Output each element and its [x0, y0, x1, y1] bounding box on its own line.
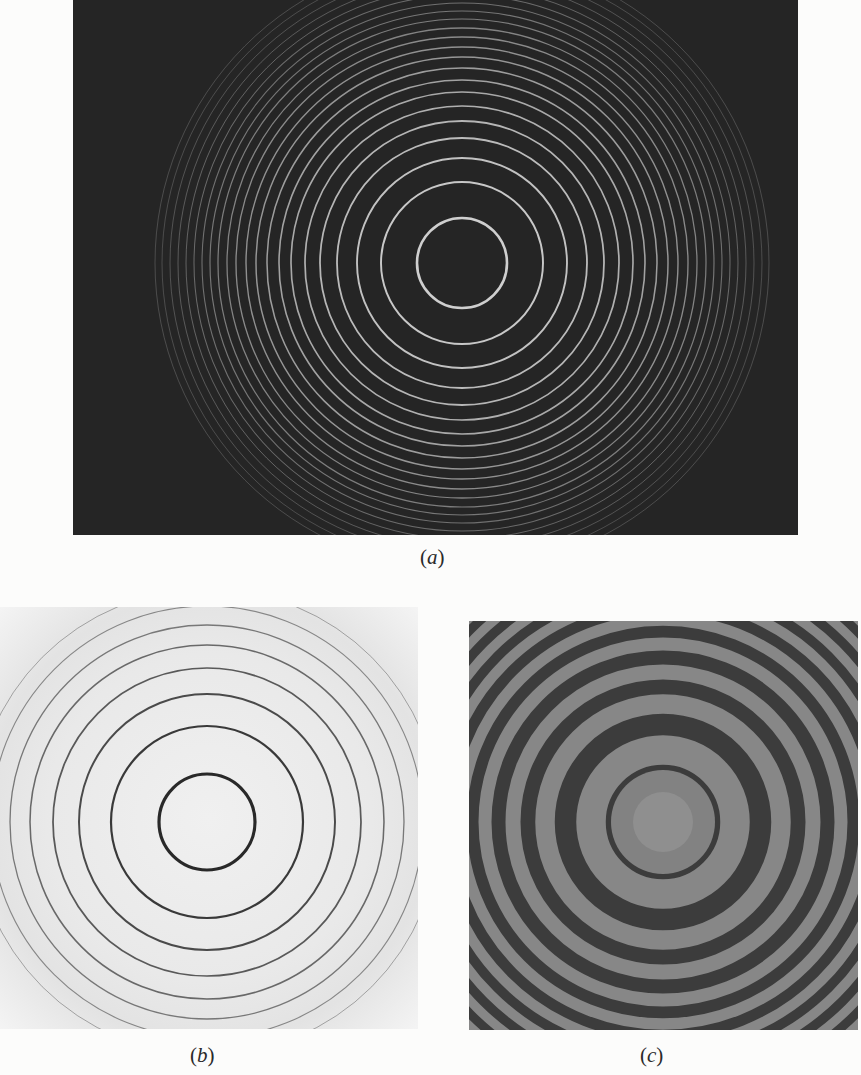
figure-panel-a: [73, 0, 798, 535]
caption-a: (a): [420, 545, 445, 570]
fringe-ring: [53, 668, 361, 976]
figure-panel-c: [469, 621, 858, 1030]
fringe-ring: [256, 57, 668, 469]
caption-paren-open: (: [190, 1043, 197, 1067]
caption-paren-close: ): [656, 1043, 663, 1067]
fringe-ring: [279, 80, 645, 446]
fringe-ring: [320, 121, 604, 405]
caption-label: b: [197, 1043, 208, 1067]
fringe-ring: [246, 47, 678, 479]
fringe-ring: [210, 11, 714, 515]
fringe-ring: [305, 106, 619, 420]
caption-paren-open: (: [640, 1043, 647, 1067]
figure-panel-b: [0, 607, 418, 1029]
fringe-ring: [381, 182, 543, 344]
fringe-ring: [202, 3, 722, 523]
fringe-ring: [30, 645, 384, 999]
fringe-ring: [267, 68, 657, 458]
fringe-ring: [357, 158, 567, 368]
caption-b: (b): [190, 1043, 215, 1068]
caption-label: c: [647, 1043, 656, 1067]
fringe-ring: [337, 138, 587, 388]
fringe-ring: [111, 726, 303, 918]
textbook-page: (a) (b) (c): [0, 0, 861, 1075]
fringe-ring: [79, 694, 335, 950]
fringe-ring: [633, 792, 693, 852]
sinusoidal-fringes-image: [469, 621, 858, 1030]
caption-paren-close: ): [438, 545, 445, 569]
fringe-ring: [417, 218, 507, 308]
fringe-ring: [10, 625, 404, 1019]
fringe-ring: [236, 37, 688, 489]
caption-label: a: [427, 545, 438, 569]
fringe-ring: [291, 92, 633, 434]
caption-paren-close: ): [208, 1043, 215, 1067]
fringe-ring: [227, 28, 697, 498]
dark-rings-image: [0, 607, 418, 1029]
fringe-ring: [0, 607, 418, 1029]
bright-rings-image: [73, 0, 798, 535]
caption-c: (c): [640, 1043, 663, 1068]
fringe-ring: [159, 774, 255, 870]
fringe-ring: [0, 607, 418, 1029]
caption-paren-open: (: [420, 545, 427, 569]
